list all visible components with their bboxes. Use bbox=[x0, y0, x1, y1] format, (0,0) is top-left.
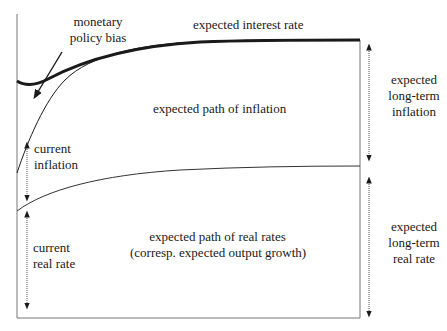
expected-path-of-real-rates-label: expected path of real rates (corresp. ex… bbox=[130, 229, 305, 261]
expected-interest-rate-label: expected interest rate bbox=[193, 17, 303, 33]
label-line: long-term bbox=[380, 235, 447, 251]
expected-interest-rate-curve bbox=[17, 40, 360, 85]
current-real-rate-label: current real rate bbox=[33, 240, 75, 272]
expected-long-term-real-rate-label: expected long-term real rate bbox=[380, 219, 447, 267]
label-line: expected bbox=[380, 219, 447, 235]
label-line: expected path of real rates bbox=[130, 229, 305, 245]
expected-long-term-inflation-label: expected long-term inflation bbox=[380, 72, 447, 120]
label-line: (corresp. expected output growth) bbox=[130, 245, 305, 261]
current-inflation-label: current inflation bbox=[34, 141, 78, 173]
label-line: monetary bbox=[58, 14, 138, 30]
label-line: long-term bbox=[380, 88, 447, 104]
label-line: expected bbox=[380, 72, 447, 88]
label-line: real rate bbox=[33, 256, 75, 272]
label-line: real rate bbox=[380, 251, 447, 267]
label-line: current bbox=[34, 141, 78, 157]
label-line: inflation bbox=[34, 157, 78, 173]
monetary-policy-bias-label: monetary policy bias bbox=[58, 14, 138, 46]
label-line: current bbox=[33, 240, 75, 256]
label-line: inflation bbox=[380, 104, 447, 120]
label-line: policy bias bbox=[58, 30, 138, 46]
expected-path-of-inflation-label: expected path of inflation bbox=[153, 101, 286, 117]
